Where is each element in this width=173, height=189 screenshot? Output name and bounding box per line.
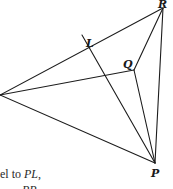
label-Q: Q bbox=[123, 58, 133, 71]
segment-AP bbox=[0, 95, 155, 163]
caption-line-2: PP bbox=[21, 183, 37, 189]
label-P: P bbox=[150, 167, 160, 180]
segment-AR bbox=[0, 8, 163, 95]
label-R: R bbox=[157, 0, 167, 11]
segment-RQ bbox=[134, 8, 163, 70]
caption-var-PL: PL bbox=[23, 167, 38, 181]
segment-QP bbox=[134, 70, 155, 163]
caption-line-1: el to PL, bbox=[0, 167, 41, 181]
caption-suffix: , bbox=[38, 167, 41, 181]
segment-RP bbox=[155, 8, 163, 163]
caption-prefix: el to bbox=[0, 167, 24, 181]
label-L: L bbox=[85, 37, 94, 50]
segment-LP bbox=[82, 35, 155, 163]
geometry-diagram: R L Q P el to PL, PP bbox=[0, 0, 173, 189]
